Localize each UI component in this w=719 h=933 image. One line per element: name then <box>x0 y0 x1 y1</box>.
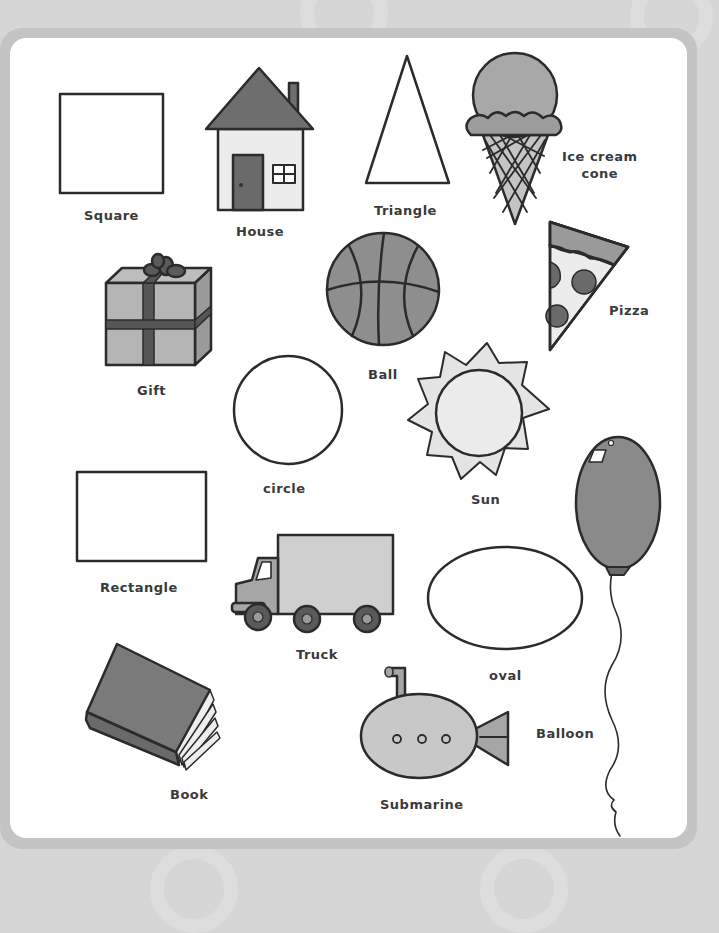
label-rectangle: Rectangle <box>100 579 178 596</box>
label-ice-cream-line2: cone <box>562 165 638 182</box>
label-oval: oval <box>489 667 522 684</box>
label-gift: Gift <box>137 382 166 399</box>
sun-icon <box>408 343 549 479</box>
triangle-shape <box>366 56 449 183</box>
label-ice-cream-cone: Ice cream cone <box>562 148 638 182</box>
label-circle: circle <box>263 480 306 497</box>
oval-shape <box>428 547 582 649</box>
ice-cream-cone-icon <box>467 53 562 224</box>
ball-icon <box>327 233 439 345</box>
circle-shape <box>234 356 342 464</box>
label-book: Book <box>170 786 208 803</box>
gift-icon <box>106 254 211 365</box>
pizza-icon <box>546 222 628 350</box>
rectangle-shape <box>77 472 206 561</box>
label-triangle: Triangle <box>374 202 437 219</box>
book-icon <box>86 644 220 770</box>
label-submarine: Submarine <box>380 796 464 813</box>
label-ball: Ball <box>368 366 398 383</box>
label-pizza: Pizza <box>609 302 649 319</box>
label-sun: Sun <box>471 491 500 508</box>
label-balloon: Balloon <box>536 725 594 742</box>
square-shape <box>60 94 163 193</box>
label-square: Square <box>84 207 139 224</box>
label-house: House <box>236 223 284 240</box>
label-truck: Truck <box>296 646 338 663</box>
submarine-icon <box>361 667 508 778</box>
truck-icon <box>232 535 393 632</box>
balloon-icon <box>576 437 660 836</box>
label-ice-cream-line1: Ice cream <box>562 148 638 165</box>
house-icon <box>206 68 313 210</box>
